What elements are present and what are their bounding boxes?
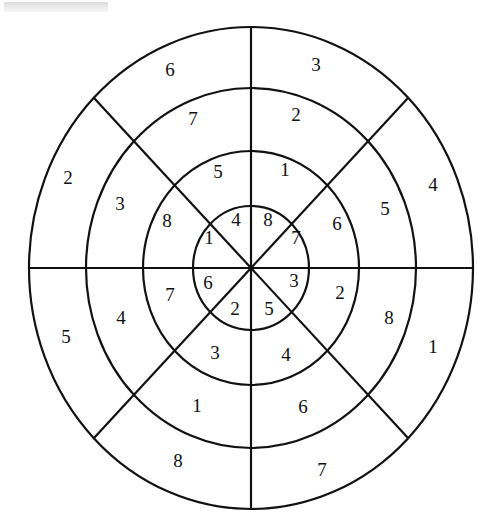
cell-ring2-right-upper: 6	[332, 213, 342, 234]
cell-ring1-bottom-left: 2	[230, 298, 240, 319]
cell-ring2-left-upper: 8	[162, 210, 172, 231]
cell-ring4-bottom-left: 8	[173, 450, 183, 471]
cell-ring4-right-upper: 4	[428, 174, 438, 195]
cell-ring2-bottom-left: 3	[210, 342, 220, 363]
cell-ring2-bottom-right: 4	[281, 344, 291, 365]
cell-ring4-top-left: 6	[165, 59, 175, 80]
cell-ring3-bottom-right: 6	[298, 396, 308, 417]
cell-ring3-left-lower: 4	[116, 307, 126, 328]
cell-ring3-right-upper: 5	[380, 198, 390, 219]
cell-ring4-right-lower: 1	[428, 336, 438, 357]
cell-ring4-top-right: 3	[311, 54, 321, 75]
circular-puzzle-figure: 8 7 3 5 2 6 1 4 1 6 2 4 3 7 8 5 2 5 8 6 …	[0, 0, 492, 527]
cell-ring1-bottom-right: 5	[264, 298, 274, 319]
cell-ring2-top-left: 5	[213, 161, 223, 182]
cell-ring2-left-lower: 7	[165, 284, 175, 305]
cell-ring1-left-upper: 1	[204, 227, 214, 248]
cell-ring4-bottom-right: 7	[317, 459, 327, 480]
cell-ring3-right-lower: 8	[384, 307, 394, 328]
cell-ring1-left-lower: 6	[203, 272, 213, 293]
cell-ring4-left-upper: 2	[63, 167, 73, 188]
cell-ring3-top-right: 2	[291, 104, 301, 125]
cell-ring3-bottom-left: 1	[192, 395, 202, 416]
circular-puzzle-diagram: 8 7 3 5 2 6 1 4 1 6 2 4 3 7 8 5 2 5 8 6 …	[0, 0, 492, 527]
cell-ring4-left-lower: 5	[61, 326, 71, 347]
cell-ring1-top-left: 4	[231, 209, 241, 230]
cell-ring2-top-right: 1	[280, 159, 290, 180]
cell-ring3-left-upper: 3	[115, 193, 125, 214]
cell-ring3-top-left: 7	[188, 108, 198, 129]
cell-ring2-right-lower: 2	[335, 282, 345, 303]
cell-ring1-right-lower: 3	[289, 270, 299, 291]
cell-ring1-top-right: 8	[263, 209, 273, 230]
cell-ring1-right-upper: 7	[291, 227, 301, 248]
